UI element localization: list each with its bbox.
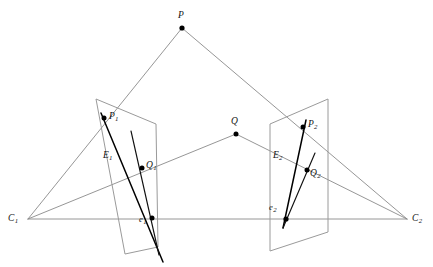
point-dot-Q2 <box>305 168 310 173</box>
point-dots-group <box>102 25 310 221</box>
point-dot-P <box>179 25 184 30</box>
point-dot-Q <box>234 132 239 137</box>
point-dot-P1 <box>102 116 107 121</box>
left-epipolar-lines-group <box>101 113 163 262</box>
line-e2-to-Q2 <box>283 153 315 228</box>
label-Q: Q <box>231 117 238 127</box>
label-E2: E2 <box>273 151 282 161</box>
label-C2: C2 <box>412 214 422 224</box>
structure-lines-group <box>28 28 407 219</box>
epipolar-geometry-figure: P Q C1 C2 P1 Q1 E1 e1 P2 Q2 E2 e2 <box>0 0 433 267</box>
point-dot-e1 <box>150 216 155 221</box>
label-E1: E1 <box>103 151 112 161</box>
point-dot-e2 <box>283 216 288 221</box>
diagram-canvas <box>0 0 433 267</box>
epipolar-line-E2 <box>283 120 306 228</box>
label-P2: P2 <box>308 120 317 130</box>
label-P1: P1 <box>109 112 118 122</box>
label-e2: e2 <box>269 203 276 212</box>
label-P: P <box>178 11 184 21</box>
label-Q2: Q2 <box>310 169 320 179</box>
line-Q1-to-e1 <box>131 131 159 255</box>
ray-C1-to-Q <box>28 134 236 219</box>
ray-C2-to-P <box>182 28 407 219</box>
label-C1: C1 <box>8 214 18 224</box>
point-dot-Q1 <box>140 166 145 171</box>
label-Q1: Q1 <box>146 161 156 171</box>
label-e1: e1 <box>139 215 146 224</box>
point-dot-P2 <box>301 125 306 130</box>
